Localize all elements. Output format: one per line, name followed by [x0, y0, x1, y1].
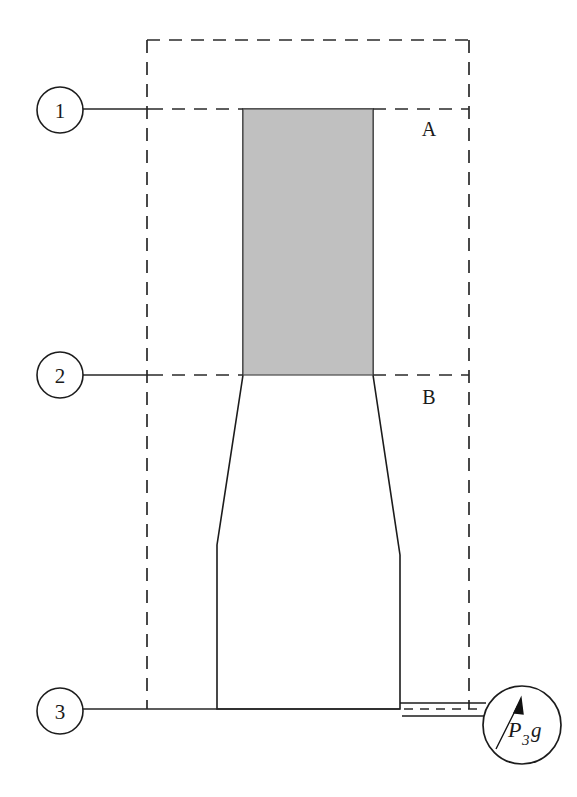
- gauge-connection-pipe: [400, 703, 488, 716]
- gauge-symbol-main: P: [507, 717, 521, 742]
- station-marker-3[interactable]: 3: [37, 688, 83, 734]
- station-marker-2[interactable]: 2: [37, 352, 83, 398]
- shaded-fluid-column: [243, 109, 373, 375]
- gauge-symbol-suffix: g: [531, 718, 542, 742]
- pressure-gauge[interactable]: P 3 g: [483, 686, 561, 764]
- station-marker-1[interactable]: 1: [37, 87, 83, 133]
- gauge-symbol-subscript: 3: [521, 732, 530, 748]
- station-3-label: 3: [55, 700, 66, 724]
- pressure-gauge-body[interactable]: [483, 686, 561, 764]
- fluid-column-rect: [243, 109, 373, 375]
- plane-label-a: A: [422, 118, 437, 140]
- plane-label-b: B: [422, 386, 435, 408]
- diagram-root: 1 2 3 A B P 3 g: [0, 0, 577, 797]
- station-2-label: 2: [55, 364, 66, 388]
- schematic-figure: 1 2 3 A B P 3 g: [0, 0, 577, 797]
- station-1-label: 1: [55, 99, 66, 123]
